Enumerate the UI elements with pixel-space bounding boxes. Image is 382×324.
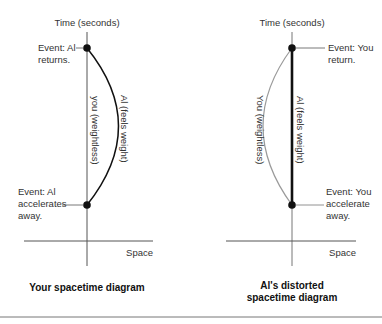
- right-curved-worldline: [263, 48, 292, 205]
- right-event-top-line2: return.: [328, 54, 355, 65]
- right-spacetime-diagram: Time (seconds) Space Event: You return. …: [226, 17, 373, 303]
- right-event-bottom-dot: [288, 201, 296, 209]
- left-space-axis-label: Space: [126, 247, 153, 258]
- right-straight-worldline-label: Al (feels weight): [295, 96, 306, 164]
- left-event-bottom-line2: accelerates: [18, 198, 67, 209]
- right-event-bottom-line3: away.: [326, 210, 350, 221]
- right-event-bottom-line1: Event: You: [326, 186, 371, 197]
- right-event-top-dot: [288, 44, 296, 52]
- right-caption-line2: spacetime diagram: [247, 292, 338, 303]
- left-curved-worldline-label: Al (feels weight): [119, 95, 130, 163]
- left-event-top-line2: returns.: [38, 54, 70, 65]
- left-spacetime-diagram: Time (seconds) Space Event: Al returns. …: [18, 17, 153, 293]
- left-caption: Your spacetime diagram: [29, 282, 145, 293]
- left-event-top-dot: [83, 44, 91, 52]
- right-time-axis-label: Time (seconds): [259, 17, 324, 28]
- left-straight-worldline-label: you (weightless): [90, 96, 101, 165]
- left-event-top-line1: Event: Al: [38, 42, 76, 53]
- right-curved-worldline-label: You (weightless): [255, 95, 266, 164]
- left-time-axis-label: Time (seconds): [54, 17, 119, 28]
- right-event-bottom-line2: accelerate: [326, 198, 370, 209]
- left-event-bottom-line1: Event: Al: [18, 186, 56, 197]
- left-event-bottom-line3: away.: [18, 210, 42, 221]
- right-space-axis-label: Space: [329, 247, 356, 258]
- left-event-bottom-dot: [83, 201, 91, 209]
- right-event-top-line1: Event: You: [328, 42, 373, 53]
- spacetime-diagrams: Time (seconds) Space Event: Al returns. …: [0, 0, 382, 324]
- right-caption-line1: Al's distorted: [260, 280, 324, 291]
